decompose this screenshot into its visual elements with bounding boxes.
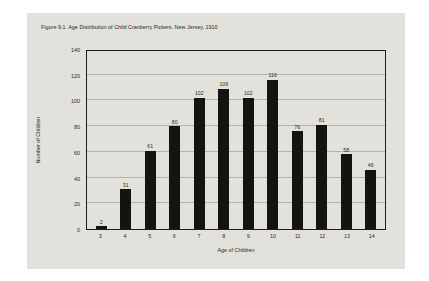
bar[interactable]: [120, 189, 131, 229]
y-axis-tick-labels: 020406080100120140: [27, 50, 84, 230]
bar[interactable]: [292, 131, 303, 229]
bar-slot: 102: [187, 51, 212, 229]
y-axis-tick-label: 0: [77, 227, 80, 233]
y-axis-tick-label: 20: [74, 201, 80, 207]
y-axis-tick-label: 140: [71, 47, 80, 53]
y-axis-tick-label: 120: [71, 73, 80, 79]
bar[interactable]: [218, 89, 229, 229]
bar-value-label: 2: [100, 219, 103, 225]
bar-slot: 76: [285, 51, 310, 229]
figure-container: Figure 9.1. Age Distribution of Child Cr…: [27, 13, 405, 269]
x-axis-tick-label: 11: [285, 233, 310, 239]
bar[interactable]: [169, 126, 180, 229]
bar-value-label: 76: [294, 124, 300, 130]
x-axis-tick-label: 3: [88, 233, 113, 239]
bar-slot: 116: [261, 51, 286, 229]
y-axis-tick-label: 60: [74, 150, 80, 156]
bar-series: 231618010210910211676815846: [87, 51, 385, 229]
bar[interactable]: [365, 170, 376, 229]
bar-value-label: 58: [343, 147, 349, 153]
plot-area: 231618010210910211676815846: [86, 50, 386, 230]
bar-value-label: 109: [219, 81, 228, 87]
bar-slot: 58: [334, 51, 359, 229]
bar-slot: 102: [236, 51, 261, 229]
x-axis-tick-label: 6: [162, 233, 187, 239]
x-axis-tick-label: 8: [211, 233, 236, 239]
bar[interactable]: [267, 80, 278, 229]
bar[interactable]: [96, 226, 107, 229]
x-axis-tick-label: 10: [261, 233, 286, 239]
x-axis-tick-label: 9: [236, 233, 261, 239]
bar-slot: 81: [310, 51, 335, 229]
bar-slot: 80: [163, 51, 188, 229]
bar[interactable]: [341, 154, 352, 229]
bar-value-label: 81: [319, 117, 325, 123]
bar-value-label: 61: [147, 143, 153, 149]
bar-slot: 31: [114, 51, 139, 229]
chart-title: Figure 9.1. Age Distribution of Child Cr…: [41, 24, 218, 30]
bar[interactable]: [316, 125, 327, 229]
y-axis-tick-label: 100: [71, 98, 80, 104]
bar-slot: 109: [212, 51, 237, 229]
bar-value-label: 102: [195, 90, 204, 96]
bar-slot: 61: [138, 51, 163, 229]
x-axis-tick-labels: 34567891011121314: [86, 233, 386, 239]
bar-value-label: 116: [269, 72, 277, 78]
y-axis-tick-label: 80: [74, 124, 80, 130]
page: Figure 9.1. Age Distribution of Child Cr…: [0, 0, 429, 281]
x-axis-tick-label: 5: [137, 233, 162, 239]
bar[interactable]: [145, 151, 156, 229]
bar-value-label: 46: [368, 162, 374, 168]
bar[interactable]: [243, 98, 254, 229]
bar-value-label: 102: [244, 90, 253, 96]
y-axis-tick-label: 40: [74, 176, 80, 182]
x-axis-tick-label: 12: [310, 233, 335, 239]
x-axis-tick-label: 7: [187, 233, 212, 239]
x-axis-tick-label: 13: [335, 233, 360, 239]
x-axis-title: Age of Children: [86, 247, 386, 253]
bar-slot: 46: [359, 51, 384, 229]
bar[interactable]: [194, 98, 205, 229]
x-axis-tick-label: 4: [113, 233, 138, 239]
bar-value-label: 31: [123, 182, 129, 188]
bar-slot: 2: [89, 51, 114, 229]
bar-value-label: 80: [172, 119, 178, 125]
x-axis-tick-label: 14: [359, 233, 384, 239]
